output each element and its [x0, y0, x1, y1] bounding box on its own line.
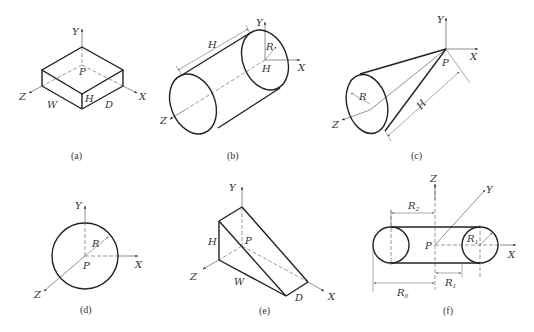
- label-p: P: [82, 260, 90, 271]
- label-x: X: [297, 62, 306, 73]
- label-x: X: [138, 91, 147, 102]
- figure-a-box: Y P Z X W H D (a): [18, 26, 147, 162]
- label-r1-inner: R1: [466, 233, 478, 246]
- figure-b-cylinder: H Y R H X Z (b): [159, 17, 306, 162]
- label-r: R: [91, 238, 100, 249]
- caption-e: (e): [259, 305, 270, 317]
- label-p: P: [441, 57, 449, 68]
- label-h-length: H: [207, 39, 217, 50]
- label-y: Y: [229, 182, 237, 193]
- caption-f: (f): [443, 305, 453, 317]
- label-x: X: [507, 249, 516, 260]
- label-d: D: [104, 99, 113, 110]
- label-p: P: [424, 240, 432, 251]
- label-w: W: [234, 276, 245, 287]
- primitive-shapes-figure: Y P Z X W H D (a) H Y R H X Z (b): [0, 0, 534, 332]
- label-h: H: [207, 236, 217, 247]
- label-y: Y: [256, 17, 264, 28]
- figure-f-torus: Z Y P X R2 R1 R1 R0 (f): [373, 173, 516, 317]
- caption-b: (b): [227, 150, 239, 162]
- label-x: X: [134, 259, 143, 270]
- label-r0: R0: [396, 287, 409, 300]
- label-h: H: [84, 93, 94, 104]
- label-x: X: [327, 291, 336, 302]
- caption-c: (c): [411, 150, 422, 162]
- label-z: Z: [429, 173, 438, 184]
- label-h-center: H: [261, 63, 271, 74]
- label-d: D: [294, 292, 303, 303]
- caption-a: (a): [71, 150, 82, 162]
- label-p: P: [244, 235, 252, 246]
- label-r2: R2: [407, 200, 420, 213]
- figure-e-wedge: Y H P Z W D X (e): [189, 182, 336, 317]
- label-z: Z: [159, 115, 168, 126]
- label-y: Y: [72, 26, 80, 37]
- label-z: Z: [331, 119, 340, 130]
- label-z: Z: [189, 271, 198, 282]
- label-r: R: [265, 41, 274, 52]
- label-r: R: [358, 91, 367, 102]
- label-r1: R1: [444, 277, 456, 290]
- figure-c-cone: Y X P R H Z (c): [331, 14, 478, 162]
- label-w: W: [47, 99, 58, 110]
- label-y: Y: [75, 200, 83, 211]
- figure-d-sphere: Y R P X Z (d): [33, 200, 143, 316]
- label-z: Z: [18, 91, 27, 102]
- label-y: Y: [437, 14, 445, 25]
- label-y: Y: [486, 184, 494, 195]
- label-p: P: [78, 66, 86, 77]
- caption-d: (d): [80, 304, 92, 316]
- label-z: Z: [33, 289, 42, 300]
- label-h: H: [414, 97, 429, 112]
- label-x: X: [469, 51, 478, 62]
